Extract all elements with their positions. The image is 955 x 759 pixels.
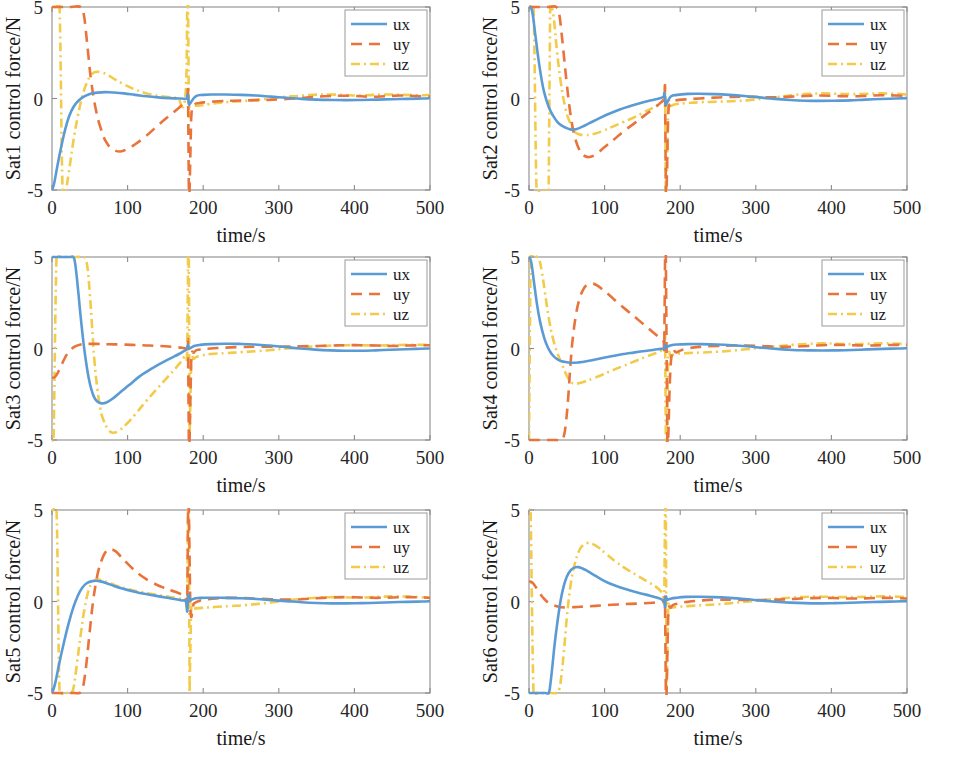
y-axis-label: Sat3 control force/N bbox=[2, 267, 24, 430]
figure-panel-grid: 0100200300400500-505Sat1 control force/N… bbox=[0, 0, 955, 759]
xtick-label: 200 bbox=[666, 700, 695, 721]
xtick-label: 400 bbox=[340, 447, 369, 468]
xtick-label: 400 bbox=[817, 197, 846, 218]
ytick-label: 5 bbox=[34, 250, 44, 268]
x-axis-label: time/s bbox=[694, 224, 743, 246]
x-axis-label: time/s bbox=[217, 224, 266, 246]
y-axis-label: Sat6 control force/N bbox=[479, 520, 501, 683]
xtick-label: 0 bbox=[47, 447, 57, 468]
ytick-label: -5 bbox=[504, 683, 520, 704]
subplot-sat4: 0100200300400500-505Sat4 control force/N… bbox=[477, 250, 955, 503]
legend-label-uz: uz bbox=[393, 558, 410, 577]
legend-label-uy: uy bbox=[870, 538, 888, 557]
legend-label-uz: uz bbox=[870, 55, 887, 74]
legend-label-uy: uy bbox=[393, 538, 411, 557]
xtick-label: 200 bbox=[666, 197, 695, 218]
series-line-ux bbox=[529, 567, 907, 694]
ytick-label: 5 bbox=[511, 503, 521, 521]
ytick-label: 0 bbox=[34, 89, 44, 110]
series-line-uy bbox=[52, 339, 430, 454]
subplot-sat6: 0100200300400500-505Sat6 control force/N… bbox=[477, 503, 955, 756]
ytick-label: -5 bbox=[27, 430, 43, 451]
legend-label-ux: ux bbox=[870, 518, 888, 537]
xtick-label: 100 bbox=[590, 197, 619, 218]
xtick-label: 500 bbox=[893, 447, 922, 468]
legend-label-uy: uy bbox=[870, 285, 888, 304]
legend-label-ux: ux bbox=[393, 265, 411, 284]
legend-label-ux: ux bbox=[870, 15, 888, 34]
ytick-label: 0 bbox=[34, 592, 44, 613]
ytick-label: 0 bbox=[511, 89, 521, 110]
xtick-label: 400 bbox=[340, 197, 369, 218]
legend-label-uy: uy bbox=[870, 35, 888, 54]
y-axis-label: Sat1 control force/N bbox=[2, 17, 24, 180]
x-axis-label: time/s bbox=[217, 727, 266, 749]
ytick-label: 0 bbox=[511, 339, 521, 360]
y-axis-label: Sat5 control force/N bbox=[2, 520, 24, 683]
ytick-label: 5 bbox=[34, 503, 44, 521]
xtick-label: 100 bbox=[113, 447, 142, 468]
series-line-uy bbox=[529, 581, 907, 706]
xtick-label: 300 bbox=[265, 197, 294, 218]
legend-label-ux: ux bbox=[393, 518, 411, 537]
ytick-label: 5 bbox=[511, 250, 521, 268]
xtick-label: 200 bbox=[189, 447, 218, 468]
xtick-label: 0 bbox=[524, 447, 534, 468]
ytick-label: 0 bbox=[34, 339, 44, 360]
legend-label-uz: uz bbox=[870, 558, 887, 577]
ytick-label: -5 bbox=[504, 430, 520, 451]
ytick-label: 5 bbox=[511, 0, 521, 18]
xtick-label: 200 bbox=[189, 700, 218, 721]
ytick-label: -5 bbox=[504, 180, 520, 201]
xtick-label: 500 bbox=[893, 700, 922, 721]
x-axis-label: time/s bbox=[694, 727, 743, 749]
xtick-label: 500 bbox=[893, 197, 922, 218]
xtick-label: 0 bbox=[524, 700, 534, 721]
subplot-sat1: 0100200300400500-505Sat1 control force/N… bbox=[0, 0, 478, 253]
xtick-label: 500 bbox=[416, 700, 445, 721]
xtick-label: 0 bbox=[47, 700, 57, 721]
subplot-sat2: 0100200300400500-505Sat2 control force/N… bbox=[477, 0, 955, 253]
legend-label-uz: uz bbox=[870, 305, 887, 324]
xtick-label: 0 bbox=[524, 197, 534, 218]
xtick-label: 200 bbox=[666, 447, 695, 468]
ytick-label: 5 bbox=[34, 0, 44, 18]
xtick-label: 300 bbox=[742, 700, 771, 721]
legend-label-uz: uz bbox=[393, 305, 410, 324]
xtick-label: 400 bbox=[817, 447, 846, 468]
xtick-label: 100 bbox=[590, 447, 619, 468]
ytick-label: -5 bbox=[27, 180, 43, 201]
xtick-label: 100 bbox=[113, 700, 142, 721]
subplot-sat3: 0100200300400500-505Sat3 control force/N… bbox=[0, 250, 478, 503]
xtick-label: 500 bbox=[416, 447, 445, 468]
ytick-label: -5 bbox=[27, 683, 43, 704]
legend-label-uy: uy bbox=[393, 285, 411, 304]
subplot-sat5: 0100200300400500-505Sat5 control force/N… bbox=[0, 503, 478, 756]
legend-label-ux: ux bbox=[870, 265, 888, 284]
y-axis-label: Sat4 control force/N bbox=[479, 267, 501, 430]
xtick-label: 400 bbox=[817, 700, 846, 721]
xtick-label: 0 bbox=[47, 197, 57, 218]
legend-label-uz: uz bbox=[393, 55, 410, 74]
xtick-label: 300 bbox=[742, 197, 771, 218]
xtick-label: 400 bbox=[340, 700, 369, 721]
xtick-label: 100 bbox=[113, 197, 142, 218]
xtick-label: 300 bbox=[742, 447, 771, 468]
xtick-label: 300 bbox=[265, 447, 294, 468]
series-line-ux bbox=[52, 92, 430, 190]
xtick-label: 300 bbox=[265, 700, 294, 721]
xtick-label: 100 bbox=[590, 700, 619, 721]
x-axis-label: time/s bbox=[217, 474, 266, 496]
xtick-label: 500 bbox=[416, 197, 445, 218]
legend-label-uy: uy bbox=[393, 35, 411, 54]
legend-label-ux: ux bbox=[393, 15, 411, 34]
y-axis-label: Sat2 control force/N bbox=[479, 17, 501, 180]
ytick-label: 0 bbox=[511, 592, 521, 613]
x-axis-label: time/s bbox=[694, 474, 743, 496]
xtick-label: 200 bbox=[189, 197, 218, 218]
